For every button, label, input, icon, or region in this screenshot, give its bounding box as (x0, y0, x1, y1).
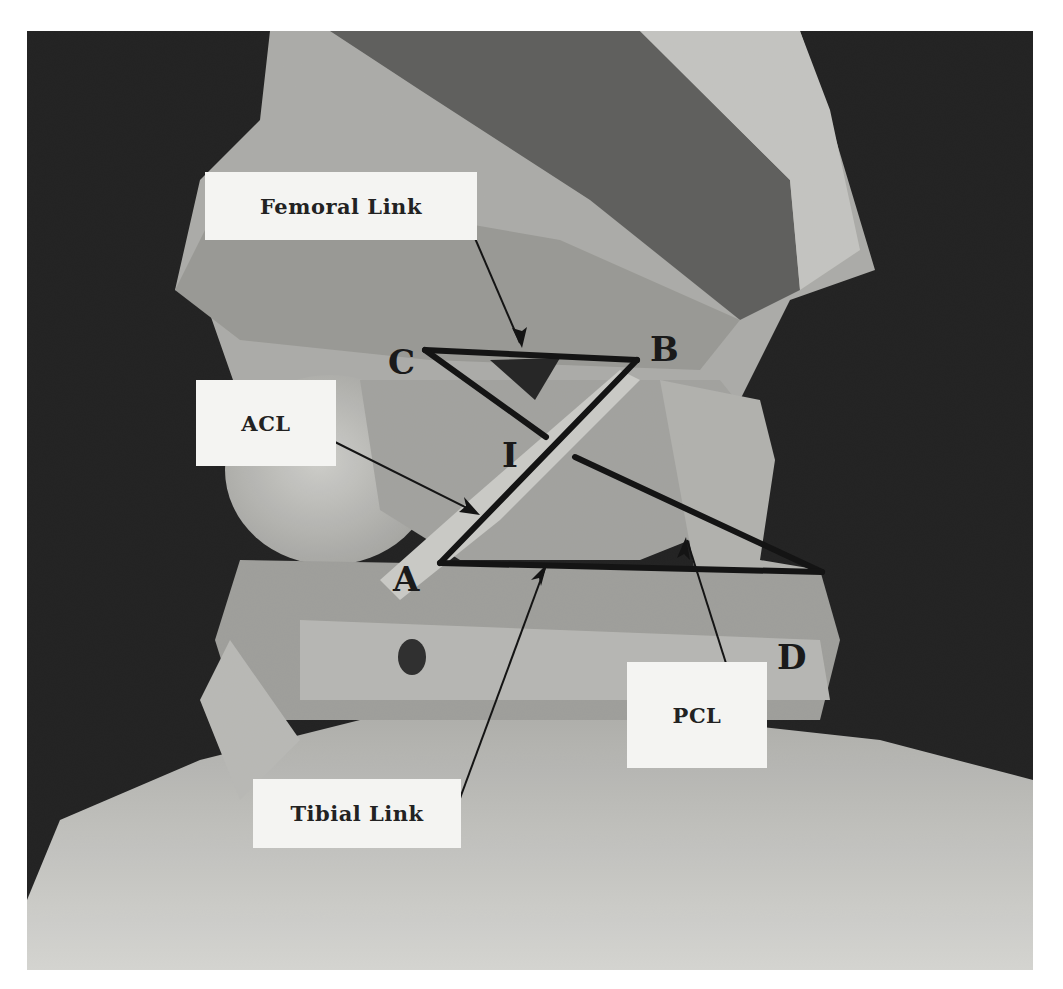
point-c-label: C (388, 345, 415, 379)
tibial-link-label: Tibial Link (253, 779, 461, 848)
acl-label: ACL (196, 380, 336, 466)
point-i-label: I (502, 438, 518, 472)
tibial-link-text: Tibial Link (290, 801, 423, 826)
femoral-link-text: Femoral Link (260, 194, 422, 219)
acl-text: ACL (241, 411, 290, 436)
femoral-link-label: Femoral Link (205, 172, 477, 240)
photo-background (27, 31, 1033, 970)
pcl-label: PCL (627, 662, 767, 768)
knee-photograph (27, 31, 1033, 970)
point-b-label: B (650, 332, 679, 366)
point-d-label: D (777, 640, 806, 674)
pcl-text: PCL (673, 703, 722, 728)
point-a-label: A (393, 562, 419, 596)
